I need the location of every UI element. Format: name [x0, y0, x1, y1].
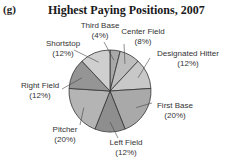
label-pitcher: Pitcher (20%) — [48, 125, 82, 145]
slice-label: Left Field — [103, 138, 149, 148]
slice-value: (20%) — [152, 111, 198, 121]
slice-label: First Base — [152, 101, 198, 111]
label-third-base: Third Base (4%) — [80, 21, 120, 41]
label-shortstop: Shortstop (12%) — [43, 39, 83, 59]
slice-value: (20%) — [48, 135, 82, 145]
slice-value: (12%) — [18, 91, 62, 101]
slice-value: (12%) — [150, 59, 226, 69]
slice-label: Center Field — [118, 27, 168, 37]
label-center-field: Center Field (8%) — [118, 27, 168, 47]
slice-label: Pitcher — [48, 125, 82, 135]
slice-label: Right Field — [18, 81, 62, 91]
label-first-base: First Base (20%) — [152, 101, 198, 121]
slice-label: Third Base — [80, 21, 120, 31]
label-designated-hitter: Designated Hitter (12%) — [150, 49, 226, 69]
slice-value: (12%) — [103, 148, 149, 158]
label-left-field: Left Field (12%) — [103, 138, 149, 158]
slice-value: (12%) — [43, 49, 83, 59]
label-right-field: Right Field (12%) — [18, 81, 62, 101]
slice-label: Designated Hitter — [150, 49, 226, 59]
slice-value: (8%) — [118, 37, 168, 47]
slice-value: (4%) — [80, 31, 120, 41]
slice-label: Shortstop — [43, 39, 83, 49]
